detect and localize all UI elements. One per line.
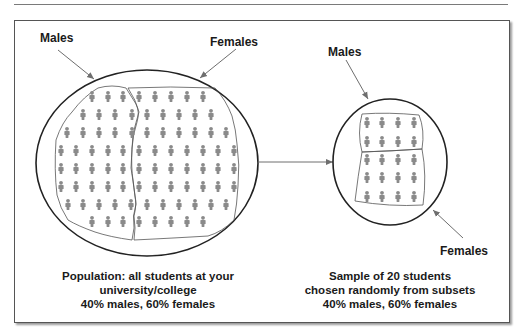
female-person-icon xyxy=(152,216,157,227)
female-person-icon xyxy=(176,127,181,138)
males-arrow xyxy=(58,50,94,79)
male-person-icon xyxy=(58,145,63,156)
male-person-icon xyxy=(395,136,400,147)
male-person-icon xyxy=(112,127,117,138)
male-person-icon xyxy=(128,199,133,210)
sample-people xyxy=(364,117,416,202)
male-person-icon xyxy=(96,199,101,210)
male-person-icon xyxy=(379,136,384,147)
female-person-icon xyxy=(215,145,220,156)
population-caption-line3: 40% males, 60% females xyxy=(57,297,239,311)
male-person-icon xyxy=(65,199,70,210)
female-person-icon xyxy=(152,91,157,102)
female-person-icon xyxy=(364,172,369,183)
female-person-icon xyxy=(395,154,400,165)
population-caption-line2: university/college xyxy=(57,283,239,297)
male-person-icon xyxy=(105,163,110,174)
female-person-icon xyxy=(215,181,220,192)
sample-females-arrow xyxy=(433,210,463,238)
female-person-icon xyxy=(200,145,205,156)
female-person-icon xyxy=(200,181,205,192)
female-person-icon xyxy=(168,145,173,156)
female-person-icon xyxy=(208,199,213,210)
female-person-icon xyxy=(192,109,197,120)
male-person-icon xyxy=(96,127,101,138)
population-females-label: Females xyxy=(210,35,258,49)
sample-circle xyxy=(333,99,447,225)
female-person-icon xyxy=(144,127,149,138)
sample-caption: Sample of 20 students chosen randomly fr… xyxy=(300,269,480,311)
female-person-icon xyxy=(364,191,369,202)
female-person-icon xyxy=(168,163,173,174)
female-person-icon xyxy=(411,154,416,165)
female-person-icon xyxy=(136,91,141,102)
male-person-icon xyxy=(96,109,101,120)
male-person-icon xyxy=(105,91,110,102)
male-person-icon xyxy=(120,216,125,227)
population-caption: Population: all students at your univers… xyxy=(57,269,239,311)
male-person-icon xyxy=(411,136,416,147)
female-person-icon xyxy=(136,181,141,192)
male-person-icon xyxy=(120,181,125,192)
population-caption-line1: Population: all students at your xyxy=(57,269,239,283)
male-person-icon xyxy=(73,145,78,156)
male-person-icon xyxy=(395,117,400,128)
female-person-icon xyxy=(379,191,384,202)
female-person-icon xyxy=(411,191,416,202)
female-person-icon xyxy=(144,109,149,120)
female-person-icon xyxy=(168,181,173,192)
female-person-icon xyxy=(379,154,384,165)
female-person-icon xyxy=(223,199,228,210)
population-males-label: Males xyxy=(40,31,73,45)
male-person-icon xyxy=(58,163,63,174)
female-person-icon xyxy=(136,216,141,227)
female-person-icon xyxy=(168,216,173,227)
females-arrow xyxy=(200,49,236,78)
male-person-icon xyxy=(58,181,63,192)
male-person-icon xyxy=(120,91,125,102)
male-person-icon xyxy=(89,181,94,192)
female-person-icon xyxy=(184,91,189,102)
female-person-icon xyxy=(192,127,197,138)
sample-caption-line2: chosen randomly from subsets xyxy=(300,283,480,297)
female-person-icon xyxy=(231,181,236,192)
female-person-icon xyxy=(160,109,165,120)
female-person-icon xyxy=(200,91,205,102)
female-person-icon xyxy=(231,145,236,156)
female-person-icon xyxy=(152,145,157,156)
male-person-icon xyxy=(105,216,110,227)
sample-males-label: Males xyxy=(328,45,361,59)
female-person-icon xyxy=(136,163,141,174)
female-person-icon xyxy=(411,172,416,183)
female-person-icon xyxy=(184,163,189,174)
male-person-icon xyxy=(112,199,117,210)
female-person-icon xyxy=(200,216,205,227)
male-person-icon xyxy=(89,91,94,102)
sample-males-arrow xyxy=(346,60,368,99)
female-person-icon xyxy=(223,127,228,138)
female-person-icon xyxy=(231,163,236,174)
male-person-icon xyxy=(80,199,85,210)
sample-caption-line1: Sample of 20 students xyxy=(300,269,480,283)
male-person-icon xyxy=(73,181,78,192)
female-person-icon xyxy=(160,199,165,210)
male-person-icon xyxy=(89,216,94,227)
female-person-icon xyxy=(152,181,157,192)
female-person-icon xyxy=(184,216,189,227)
female-person-icon xyxy=(168,91,173,102)
female-person-icon xyxy=(379,172,384,183)
male-person-icon xyxy=(129,109,134,120)
female-person-icon xyxy=(200,163,205,174)
female-person-icon xyxy=(215,163,220,174)
female-person-icon xyxy=(395,172,400,183)
male-person-icon xyxy=(120,163,125,174)
male-person-icon xyxy=(411,117,416,128)
female-person-icon xyxy=(184,145,189,156)
male-person-icon xyxy=(105,145,110,156)
female-person-icon xyxy=(192,199,197,210)
female-person-icon xyxy=(152,163,157,174)
male-person-icon xyxy=(120,145,125,156)
male-person-icon xyxy=(364,117,369,128)
male-person-icon xyxy=(64,127,69,138)
female-person-icon xyxy=(176,199,181,210)
